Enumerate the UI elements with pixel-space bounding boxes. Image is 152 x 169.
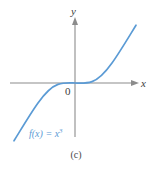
figure-caption: (c) — [0, 150, 152, 160]
y-axis-arrow-icon — [72, 17, 78, 25]
cubic-function-figure: y x 0 f(x) = x3 (c) — [0, 0, 152, 169]
x-axis-label: x — [141, 78, 146, 89]
function-equation-base: f(x) = x — [29, 128, 59, 139]
function-equation-label: f(x) = x3 — [29, 128, 63, 139]
function-equation-exponent: 3 — [59, 127, 63, 135]
x-axis-arrow-icon — [131, 80, 139, 86]
origin-label: 0 — [65, 86, 71, 97]
y-axis-label: y — [71, 6, 76, 17]
plot-area — [0, 0, 152, 169]
